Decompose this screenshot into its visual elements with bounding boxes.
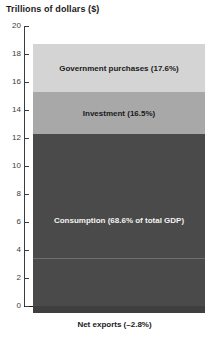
y-tick-label-text: 18 [1, 50, 21, 58]
y-tick-label: 8 [0, 190, 21, 198]
y-tick-mark [25, 26, 29, 27]
y-tick-mark [25, 222, 29, 223]
y-tick-label: 20 [0, 22, 21, 30]
bar-segment-net-exports[interactable] [33, 306, 205, 313]
y-tick-mark [25, 54, 29, 55]
y-tick-label-text: 0 [1, 302, 21, 310]
y-tick-label: 18 [0, 50, 21, 58]
gdp-components-chart: Trillions of dollars ($) 024681012141618… [0, 0, 220, 340]
y-tick-mark [25, 278, 29, 279]
y-tick-label-text: 12 [1, 134, 21, 142]
y-tick-label-text: 2 [1, 274, 21, 282]
y-tick-label-text: 10 [1, 162, 21, 170]
y-tick-mark [25, 194, 29, 195]
y-tick-mark [25, 110, 29, 111]
y-tick-label: 0 [0, 302, 21, 310]
y-tick-mark [25, 166, 29, 167]
y-tick-mark [25, 138, 29, 139]
bar-segment-label-government-purchases: Government purchases (17.6%) [33, 64, 205, 73]
y-tick-label: 10 [0, 162, 21, 170]
y-tick-label-text: 6 [1, 218, 21, 226]
bar-segment-label-consumption: Consumption (68.6% of total GDP) [33, 216, 205, 225]
net-exports-label: Net exports (–2.8%) [24, 320, 205, 330]
y-tick-label: 14 [0, 106, 21, 114]
bar-segment-label-investment: Investment (16.5%) [33, 109, 205, 118]
plot-area: 02468101214161820 Consumption (68.6% of … [0, 0, 220, 340]
y-tick-mark [25, 250, 29, 251]
y-tick-label: 16 [0, 78, 21, 86]
y-tick-mark [25, 82, 29, 83]
y-tick-label: 4 [0, 246, 21, 254]
y-tick-label-text: 16 [1, 78, 21, 86]
y-tick-label-text: 20 [1, 22, 21, 30]
y-tick-label-text: 8 [1, 190, 21, 198]
y-tick-label: 6 [0, 218, 21, 226]
y-tick-mark [25, 306, 29, 307]
inner-rule-line [33, 258, 205, 259]
y-tick-label: 12 [0, 134, 21, 142]
y-tick-label: 2 [0, 274, 21, 282]
y-tick-label-text: 4 [1, 246, 21, 254]
y-tick-label-text: 14 [1, 106, 21, 114]
